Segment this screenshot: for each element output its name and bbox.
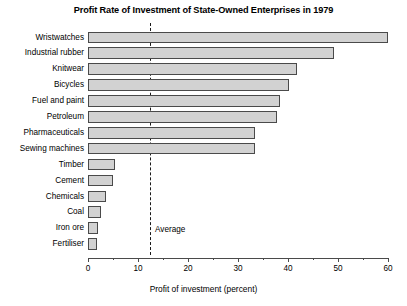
category-label: Fertiliser [53,238,84,250]
category-label: Wristwatches [35,32,84,44]
bar [88,143,255,155]
bar [88,175,113,187]
bar-row: Industrial rubber [88,46,388,62]
x-tick-minor [313,258,314,260]
bar-row: Bicycles [88,78,388,94]
bar [88,191,106,203]
x-tick-major [88,258,89,262]
bar-row: Cement [88,173,388,189]
bar [88,206,101,218]
x-tick-label: 40 [283,264,292,273]
bar-row: Petroleum [88,110,388,126]
category-label: Chemicals [46,191,84,203]
bar-row: Iron ore [88,221,388,237]
x-axis-title: Profit of investment (percent) [0,284,407,294]
bar [88,63,297,75]
category-label: Pharmaceuticals [23,127,84,139]
bar-row: Coal [88,205,388,221]
bar [88,238,97,250]
bar-row: Sewing machines [88,141,388,157]
category-label: Coal [67,206,84,218]
x-tick-minor [163,258,164,260]
bar [88,95,280,107]
x-tick-minor [213,258,214,260]
category-label: Timber [59,159,84,171]
bar [88,47,334,59]
category-label: Bicycles [54,79,84,91]
x-tick-major [188,258,189,262]
bar [88,111,277,123]
bar-chart: Profit Rate of Investment of State-Owned… [0,0,407,306]
category-label: Iron ore [56,222,84,234]
x-tick-minor [263,258,264,260]
x-tick-label: 20 [183,264,192,273]
x-tick-label: 30 [233,264,242,273]
chart-title: Profit Rate of Investment of State-Owned… [0,5,407,15]
category-label: Fuel and paint [32,95,84,107]
x-tick-minor [363,258,364,260]
bar-row: Knitwear [88,62,388,78]
bar [88,127,255,139]
category-label: Industrial rubber [25,47,84,59]
x-tick-label: 60 [383,264,392,273]
category-label: Knitwear [52,63,84,75]
bar-row: Wristwatches [88,30,388,46]
x-tick-label: 0 [86,264,91,273]
x-tick-major [388,258,389,262]
bar [88,222,98,234]
x-tick-major [338,258,339,262]
plot-area: Average WristwatchesIndustrial rubberKni… [88,30,388,254]
bar [88,159,115,171]
x-axis: 0102030405060 [88,258,388,259]
x-tick-major [138,258,139,262]
x-tick-label: 50 [333,264,342,273]
category-label: Sewing machines [20,143,84,155]
bar-row: Chemicals [88,189,388,205]
bar-row: Fuel and paint [88,94,388,110]
x-tick-major [238,258,239,262]
x-tick-major [288,258,289,262]
bar-row: Timber [88,157,388,173]
bar-row: Fertiliser [88,237,388,253]
category-label: Cement [55,175,84,187]
bar [88,79,289,91]
x-tick-label: 10 [133,264,142,273]
x-tick-minor [113,258,114,260]
category-label: Petroleum [47,111,84,123]
bar [88,32,388,44]
bar-row: Pharmaceuticals [88,125,388,141]
